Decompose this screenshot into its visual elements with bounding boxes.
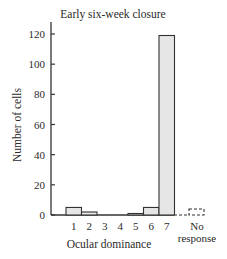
y-tick-label: 80: [34, 88, 46, 100]
bar-no-response: [189, 209, 204, 215]
x-tick-label: 1: [71, 220, 77, 232]
y-tick-label: 60: [34, 119, 46, 131]
y-tick-label: 100: [29, 58, 46, 70]
x-tick-label-response: response: [178, 232, 217, 244]
bar-5: [128, 213, 144, 215]
x-tick-label: 5: [133, 220, 139, 232]
y-tick-label: 40: [34, 149, 46, 161]
x-tick-label: 3: [102, 220, 108, 232]
y-tick-label: 120: [29, 28, 46, 40]
bars: [66, 36, 204, 215]
x-tick-label: 2: [87, 220, 93, 232]
bar-1: [66, 207, 82, 215]
ocular-dominance-chart: Early six-week closure Number of cells O…: [0, 0, 227, 259]
y-axis-label: Number of cells: [11, 87, 23, 162]
y-tick-label: 0: [40, 209, 46, 221]
x-tick-label: 7: [164, 220, 170, 232]
bar-2: [82, 212, 98, 215]
y-tick-label: 20: [34, 179, 46, 191]
x-tick-label: 6: [149, 220, 155, 232]
x-tick-label: 4: [118, 220, 124, 232]
x-axis-label: Ocular dominance: [67, 238, 152, 250]
x-tick-label-no: No: [190, 220, 204, 232]
bar-6: [144, 207, 160, 215]
chart-title: Early six-week closure: [60, 8, 165, 21]
bar-7: [159, 36, 175, 215]
chart-canvas: Early six-week closure Number of cells O…: [0, 0, 227, 259]
